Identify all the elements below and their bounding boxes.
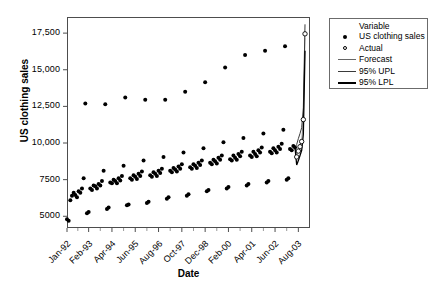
data-point bbox=[162, 155, 166, 159]
chart-root: US clothing sales Date 5000750010,00012,… bbox=[0, 0, 433, 292]
data-point bbox=[190, 167, 194, 171]
legend-label: US clothing sales bbox=[359, 31, 425, 41]
data-point bbox=[75, 195, 79, 199]
data-point bbox=[261, 131, 265, 135]
legend-label: Forecast bbox=[359, 54, 392, 64]
legend-box: Variable US clothing salesActualForecast… bbox=[329, 18, 428, 89]
data-point bbox=[286, 176, 290, 180]
data-point bbox=[260, 145, 264, 149]
data-point bbox=[150, 175, 154, 179]
data-point bbox=[98, 184, 102, 188]
legend-item[interactable]: Forecast bbox=[330, 54, 429, 65]
data-point bbox=[102, 169, 106, 173]
data-point bbox=[147, 200, 151, 204]
data-point bbox=[180, 162, 184, 166]
data-point bbox=[107, 205, 111, 209]
actual-point bbox=[301, 117, 305, 121]
data-point bbox=[120, 174, 124, 178]
data-point bbox=[263, 49, 267, 53]
data-point bbox=[167, 195, 171, 199]
data-point bbox=[122, 164, 126, 168]
legend-item[interactable]: 95% LPL bbox=[330, 77, 429, 88]
data-point bbox=[221, 140, 225, 144]
data-point bbox=[115, 181, 119, 185]
data-point bbox=[158, 171, 162, 175]
data-point bbox=[103, 102, 107, 106]
data-point bbox=[255, 154, 259, 158]
forecast-interval-lines bbox=[295, 24, 305, 165]
actual-point bbox=[299, 139, 303, 143]
data-point bbox=[281, 128, 285, 132]
data-point bbox=[138, 174, 142, 178]
data-point bbox=[201, 146, 205, 150]
data-point bbox=[198, 163, 202, 167]
legend-label: 95% LPL bbox=[359, 77, 394, 87]
data-point bbox=[90, 188, 94, 192]
data-point bbox=[127, 203, 131, 207]
legend-item[interactable]: 95% UPL bbox=[330, 66, 429, 77]
data-point bbox=[163, 98, 167, 102]
data-point bbox=[170, 170, 174, 174]
filled-circle-icon bbox=[338, 31, 356, 42]
data-point bbox=[183, 90, 187, 94]
data-point bbox=[80, 186, 84, 190]
data-point bbox=[280, 142, 284, 146]
line-swatch-icon bbox=[338, 66, 356, 77]
filled-dot bbox=[343, 35, 347, 39]
data-points-layer bbox=[65, 44, 297, 222]
data-point bbox=[110, 181, 114, 185]
data-point bbox=[123, 96, 127, 100]
data-point bbox=[200, 159, 204, 163]
actual-point bbox=[298, 144, 302, 148]
data-point bbox=[178, 167, 182, 171]
data-point bbox=[155, 174, 159, 178]
data-point bbox=[68, 198, 72, 202]
legend-item[interactable]: Actual bbox=[330, 43, 429, 54]
data-point bbox=[215, 162, 219, 166]
line-swatch bbox=[338, 59, 356, 60]
data-point bbox=[266, 179, 270, 183]
data-point bbox=[206, 188, 210, 192]
data-point bbox=[130, 178, 134, 182]
data-point bbox=[135, 177, 139, 181]
data-point bbox=[67, 219, 71, 223]
line-swatch bbox=[338, 71, 356, 72]
legend-title: Variable bbox=[359, 21, 390, 31]
data-point bbox=[187, 192, 191, 196]
data-point bbox=[118, 178, 122, 182]
data-point bbox=[203, 80, 207, 84]
data-point bbox=[182, 151, 186, 155]
data-point bbox=[275, 151, 279, 155]
data-point bbox=[243, 53, 247, 57]
legend-label: Actual bbox=[359, 43, 383, 53]
legend-item[interactable]: US clothing sales bbox=[330, 31, 429, 42]
data-point bbox=[218, 158, 222, 162]
data-point bbox=[278, 147, 282, 151]
data-point bbox=[87, 210, 91, 214]
data-point bbox=[240, 150, 244, 154]
data-point bbox=[283, 44, 287, 48]
data-point bbox=[290, 148, 294, 152]
open-circle-icon bbox=[338, 43, 356, 54]
actual-point bbox=[303, 32, 307, 36]
actual-point bbox=[296, 149, 300, 153]
data-point bbox=[226, 185, 230, 189]
data-point bbox=[143, 98, 147, 102]
data-point bbox=[246, 182, 250, 186]
line-swatch-icon bbox=[338, 77, 356, 88]
data-point bbox=[293, 145, 297, 149]
line-swatch bbox=[338, 82, 356, 84]
data-point bbox=[142, 159, 146, 163]
data-point bbox=[241, 136, 245, 140]
data-point bbox=[160, 167, 164, 171]
data-point bbox=[250, 155, 254, 159]
data-point bbox=[140, 170, 144, 174]
data-point bbox=[195, 166, 199, 170]
legend-label: 95% UPL bbox=[359, 66, 395, 76]
actual-point bbox=[294, 155, 298, 159]
data-point bbox=[78, 191, 82, 195]
data-point bbox=[270, 151, 274, 155]
data-point bbox=[100, 179, 104, 183]
open-dot bbox=[343, 46, 347, 50]
data-point bbox=[220, 153, 224, 157]
